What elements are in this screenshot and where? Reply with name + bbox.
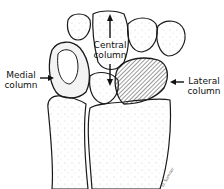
radius-bone — [88, 99, 170, 189]
lateral-column-scaphoid — [115, 58, 167, 104]
lunate-bone — [90, 73, 119, 104]
trapezium-like-bone-1 — [67, 14, 90, 40]
trapezium-bone — [157, 21, 185, 56]
medial-column-label: Medial column — [2, 70, 40, 90]
wrist-diagram: Central column Medial column Lateral col… — [0, 0, 224, 189]
ulna-bone — [48, 96, 88, 189]
lateral-column-label: Lateral column — [184, 76, 224, 96]
lateral-column-arrow — [170, 79, 184, 85]
trapezoid-bone — [128, 18, 158, 52]
central-column-label: Central column — [93, 40, 127, 60]
